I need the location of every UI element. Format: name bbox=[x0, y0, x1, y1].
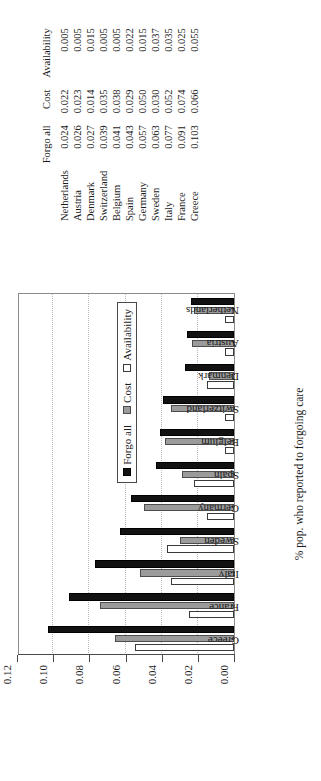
axis-tick-mark bbox=[198, 655, 199, 662]
cell-forgo-all: 0.043 bbox=[123, 113, 136, 163]
category-label: Austria bbox=[207, 338, 239, 349]
legend-label: Forgo all bbox=[121, 425, 133, 465]
cell-forgo-all: 0.039 bbox=[97, 113, 110, 163]
axis-tick-mark bbox=[126, 655, 127, 662]
table-row: France0.0910.0740.025 bbox=[175, 16, 188, 221]
cell-cost: 0.052 bbox=[162, 78, 175, 114]
bar-group bbox=[19, 589, 234, 622]
table-row: Denmark0.0270.0140.015 bbox=[84, 16, 97, 221]
cell-cost: 0.030 bbox=[149, 78, 162, 114]
bar-forgo bbox=[48, 626, 234, 633]
category-label: Switzerland bbox=[186, 404, 239, 415]
cell-forgo-all: 0.077 bbox=[162, 113, 175, 163]
axis-tick-mark bbox=[17, 655, 18, 662]
axis-title: % pop. who reported to forgoing care bbox=[293, 293, 305, 655]
cell-forgo-all: 0.027 bbox=[84, 113, 97, 163]
cell-availability: 0.035 bbox=[162, 16, 175, 77]
table-row: Germany0.0570.0500.015 bbox=[136, 16, 149, 221]
row-country: France bbox=[175, 163, 188, 221]
category-label: France bbox=[209, 602, 239, 613]
axis-tick-label: 0.08 bbox=[74, 665, 85, 703]
bar-group bbox=[19, 557, 234, 590]
cell-availability: 0.005 bbox=[71, 16, 84, 77]
cell-cost: 0.014 bbox=[84, 78, 97, 114]
category-label: Sweden bbox=[204, 536, 239, 547]
legend-item: Availability bbox=[121, 309, 133, 372]
bar-forgo bbox=[120, 528, 234, 535]
axis-tick-mark bbox=[234, 655, 235, 662]
cell-forgo-all: 0.091 bbox=[175, 113, 188, 163]
cell-cost: 0.038 bbox=[110, 78, 123, 114]
table-row: Spain0.0430.0290.022 bbox=[123, 16, 136, 221]
legend-item: Cost bbox=[121, 383, 133, 414]
bar-chart: Forgo allCostAvailability 0.000.020.040.… bbox=[18, 293, 263, 703]
col-header-forgo-all: Forgo all bbox=[40, 113, 58, 163]
table-row: Switzerland0.0390.0350.005 bbox=[97, 16, 110, 221]
table-row: Austria0.0260.0230.005 bbox=[71, 16, 84, 221]
bar-forgo bbox=[187, 331, 234, 338]
cell-cost: 0.029 bbox=[123, 78, 136, 114]
row-country: Italy bbox=[162, 163, 175, 221]
category-label: Netherlands bbox=[186, 305, 239, 316]
cell-availability: 0.015 bbox=[136, 16, 149, 77]
value-axis-line bbox=[18, 654, 235, 655]
cell-forgo-all: 0.041 bbox=[110, 113, 123, 163]
bar-forgo bbox=[160, 429, 234, 436]
row-country: Austria bbox=[71, 163, 84, 221]
axis-tick-mark bbox=[53, 655, 54, 662]
cell-availability: 0.022 bbox=[123, 16, 136, 77]
cell-cost: 0.023 bbox=[71, 78, 84, 114]
table-row: Belgium0.0410.0380.005 bbox=[110, 16, 123, 221]
plot-area: Forgo allCostAvailability bbox=[18, 293, 235, 655]
legend-swatch-cost bbox=[123, 406, 131, 414]
row-country: Denmark bbox=[84, 163, 97, 221]
row-country: Germany bbox=[136, 163, 149, 221]
row-country: Switzerland bbox=[97, 163, 110, 221]
cell-forgo-all: 0.026 bbox=[71, 113, 84, 163]
table-row: Sweden0.0630.0300.037 bbox=[149, 16, 162, 221]
table-row: Netherlands0.0240.0220.005 bbox=[58, 16, 71, 221]
cell-availability: 0.025 bbox=[175, 16, 188, 77]
row-country: Belgium bbox=[110, 163, 123, 221]
category-label: Belgium bbox=[201, 437, 239, 448]
table-header-row: Forgo all Cost Availability bbox=[40, 16, 58, 221]
col-header-cost: Cost bbox=[40, 78, 58, 114]
cell-forgo-all: 0.103 bbox=[188, 113, 201, 163]
bar-forgo bbox=[163, 396, 234, 403]
row-country: Greece bbox=[188, 163, 201, 221]
cell-cost: 0.066 bbox=[188, 78, 201, 114]
row-country: Spain bbox=[123, 163, 136, 221]
cell-availability: 0.037 bbox=[149, 16, 162, 77]
figure-canvas: Forgo allCostAvailability 0.000.020.040.… bbox=[0, 0, 321, 781]
axis-tick-mark bbox=[162, 655, 163, 662]
cell-availability: 0.005 bbox=[58, 16, 71, 77]
axis-tick-label: 0.10 bbox=[38, 665, 49, 703]
row-country: Sweden bbox=[149, 163, 162, 221]
data-table-wrap: Forgo all Cost Availability Netherlands0… bbox=[40, 16, 201, 221]
col-header-availability: Availability bbox=[40, 16, 58, 77]
data-table: Forgo all Cost Availability Netherlands0… bbox=[40, 16, 201, 221]
category-label: Denmark bbox=[198, 371, 239, 382]
bar-forgo bbox=[69, 593, 234, 600]
legend-swatch-forgo bbox=[123, 468, 131, 476]
table-row: Greece0.1030.0660.055 bbox=[188, 16, 201, 221]
legend-item: Forgo all bbox=[121, 425, 133, 476]
col-header-country bbox=[40, 163, 58, 221]
category-label: Italy bbox=[219, 569, 239, 580]
cell-cost: 0.035 bbox=[97, 78, 110, 114]
legend-label: Availability bbox=[121, 309, 133, 361]
bar-forgo bbox=[95, 561, 234, 568]
table-body: Netherlands0.0240.0220.005Austria0.0260.… bbox=[58, 16, 201, 221]
cell-availability: 0.005 bbox=[110, 16, 123, 77]
table-row: Italy0.0770.0520.035 bbox=[162, 16, 175, 221]
bar-group bbox=[19, 622, 234, 655]
cell-forgo-all: 0.024 bbox=[58, 113, 71, 163]
cell-availability: 0.005 bbox=[97, 16, 110, 77]
legend-label: Cost bbox=[121, 383, 133, 403]
cell-availability: 0.015 bbox=[84, 16, 97, 77]
cell-cost: 0.074 bbox=[175, 78, 188, 114]
legend-swatch-avail bbox=[123, 364, 131, 372]
bar-forgo bbox=[185, 364, 234, 371]
cell-cost: 0.050 bbox=[136, 78, 149, 114]
cell-cost: 0.022 bbox=[58, 78, 71, 114]
